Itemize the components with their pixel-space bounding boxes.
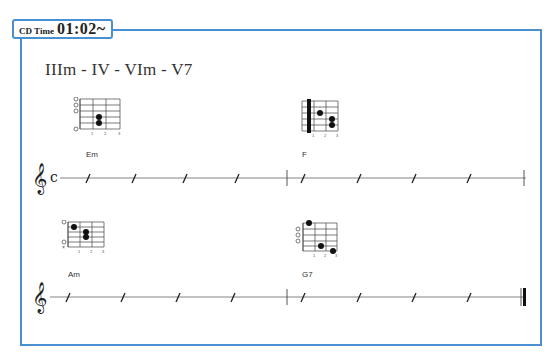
staff-row-1: 𝄞 c [30,163,530,197]
svg-text:3: 3 [118,131,121,136]
svg-text:1: 1 [312,133,315,138]
staff-row-2: 𝄞 [30,282,530,316]
svg-text:×: × [62,244,65,250]
chord-diagram-am: × 123 [60,220,110,260]
svg-text:2: 2 [90,249,93,254]
final-barline-icon [523,288,526,306]
chord-name-g7: G7 [302,270,313,279]
treble-clef-icon: 𝄞 [32,282,47,314]
common-time-icon: c [50,169,58,185]
chord-diagram-em: 123 [72,97,132,139]
svg-text:2: 2 [324,133,327,138]
svg-text:2: 2 [104,131,107,136]
svg-text:3: 3 [102,249,105,254]
cd-time-value: 01:02~ [57,21,106,37]
svg-text:1: 1 [313,253,316,258]
chord-diagram-f: 123 [298,99,348,139]
chord-name-f: F [302,150,307,159]
chord-name-am: Am [68,270,80,279]
cd-time-badge: CD Time 01:02~ [12,19,113,39]
chord-name-em: Em [86,150,98,159]
chord-progression-title: IIIm - IV - VIm - V7 [45,60,193,80]
treble-clef-icon: 𝄞 [32,163,47,195]
cd-time-label: CD Time [19,23,54,39]
svg-text:1: 1 [91,131,94,136]
chord-diagram-g7: 123 [293,219,343,259]
svg-text:3: 3 [336,133,339,138]
svg-text:2: 2 [324,253,327,258]
svg-text:3: 3 [335,253,338,258]
svg-text:1: 1 [78,249,81,254]
